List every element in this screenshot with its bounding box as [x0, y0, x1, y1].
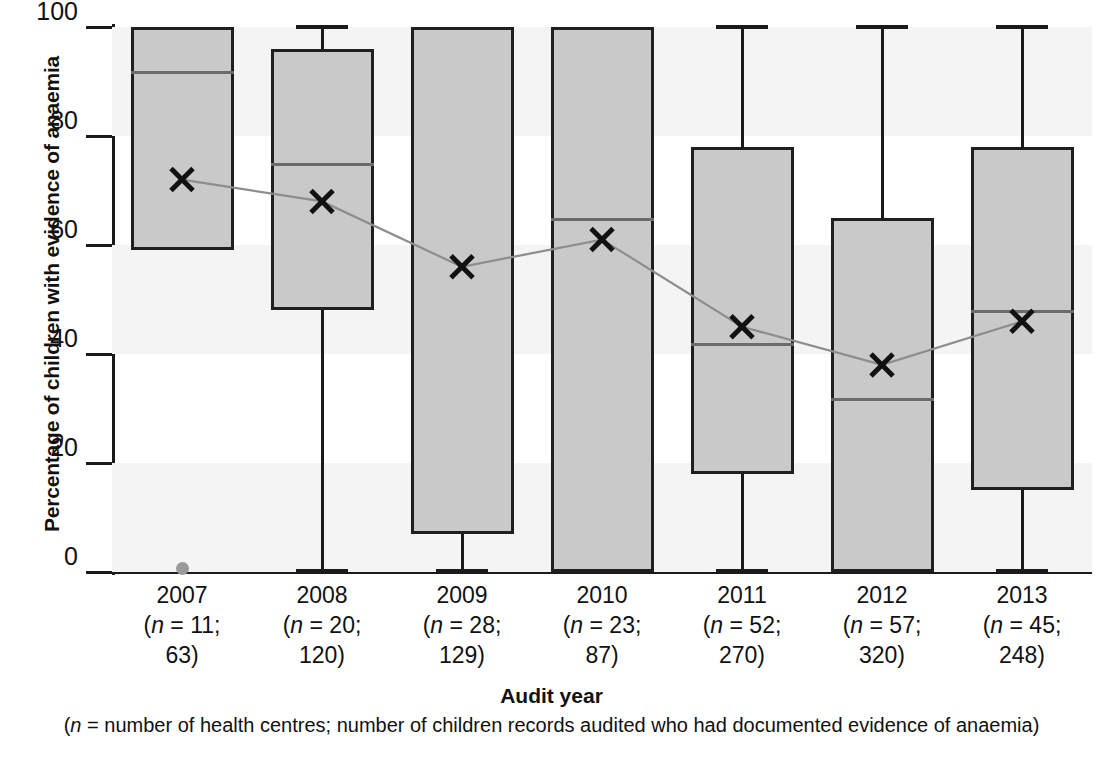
x-tick-group-2013: 2013(n = 45;248)	[947, 580, 1097, 670]
x-axis-title: Audit year	[0, 684, 1103, 708]
x-tick-group-2009: 2009(n = 28;129)	[387, 580, 537, 670]
x-tick-note-line2: 270)	[667, 640, 817, 670]
y-tick-label: 40	[0, 324, 78, 353]
x-tick-label-year: 2010	[527, 580, 677, 610]
y-tick-mark	[86, 462, 112, 465]
y-tick-mark	[86, 135, 112, 138]
mean-marker-x	[451, 256, 473, 278]
x-tick-label-year: 2008	[247, 580, 397, 610]
chart-page: Percentage of children with evidence of …	[0, 0, 1103, 768]
y-tick-label: 100	[0, 0, 78, 26]
x-tick-note-line2: 248)	[947, 640, 1097, 670]
y-axis-title: Percentage of children with evidence of …	[40, 4, 64, 584]
plot-area	[112, 27, 1092, 572]
mean-marker-x	[311, 190, 333, 212]
mean-line-series	[112, 27, 1092, 572]
y-tick-mark	[86, 353, 112, 356]
x-tick-label-year: 2009	[387, 580, 537, 610]
x-tick-note-line1: (n = 23;	[527, 610, 677, 640]
y-tick-label: 80	[0, 106, 78, 135]
x-tick-group-2007: 2007(n = 11;63)	[107, 580, 257, 670]
y-tick-mark	[86, 26, 112, 29]
mean-marker-x	[1011, 310, 1033, 332]
note-italic-n: n	[70, 714, 81, 736]
x-axis-note: (n = number of health centres; number of…	[0, 712, 1103, 739]
mean-marker-x	[171, 169, 193, 191]
x-tick-group-2008: 2008(n = 20;120)	[247, 580, 397, 670]
y-tick-mark	[86, 571, 112, 574]
x-tick-note-line1: (n = 57;	[807, 610, 957, 640]
mean-connector-line	[182, 180, 1022, 365]
x-tick-note-line1: (n = 28;	[387, 610, 537, 640]
x-tick-group-2012: 2012(n = 57;320)	[807, 580, 957, 670]
x-tick-group-2010: 2010(n = 23;87)	[527, 580, 677, 670]
x-tick-note-line2: 63)	[107, 640, 257, 670]
x-tick-note-line1: (n = 11;	[107, 610, 257, 640]
y-tick-label: 60	[0, 215, 78, 244]
y-tick-mark	[86, 244, 112, 247]
y-tick-label: 0	[0, 542, 78, 571]
x-tick-label-year: 2012	[807, 580, 957, 610]
x-tick-note-line2: 129)	[387, 640, 537, 670]
x-tick-label-year: 2011	[667, 580, 817, 610]
x-tick-note-line1: (n = 45;	[947, 610, 1097, 640]
x-tick-group-2011: 2011(n = 52;270)	[667, 580, 817, 670]
x-tick-note-line2: 120)	[247, 640, 397, 670]
x-tick-note-line2: 87)	[527, 640, 677, 670]
mean-marker-x	[731, 316, 753, 338]
x-tick-note-line1: (n = 52;	[667, 610, 817, 640]
x-tick-note-line2: 320)	[807, 640, 957, 670]
x-tick-label-year: 2007	[107, 580, 257, 610]
x-tick-note-line1: (n = 20;	[247, 610, 397, 640]
mean-marker-x	[871, 354, 893, 376]
y-tick-label: 20	[0, 433, 78, 462]
x-tick-label-year: 2013	[947, 580, 1097, 610]
mean-marker-x	[591, 229, 613, 251]
